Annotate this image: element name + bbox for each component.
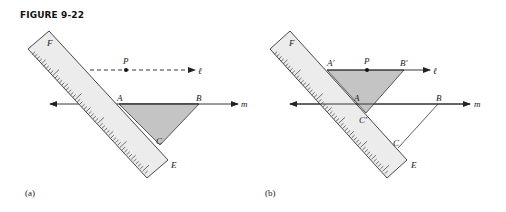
- label-e: E: [170, 160, 177, 170]
- label-f: F: [46, 38, 53, 48]
- label-e: E: [410, 160, 417, 170]
- label-a: A: [116, 93, 123, 103]
- point-p: [124, 68, 128, 72]
- ruler: [270, 31, 407, 178]
- label-b-prime: B′: [400, 58, 408, 68]
- label-line-l: ℓ: [433, 66, 437, 76]
- label-b: B: [196, 93, 202, 103]
- label-line-l: ℓ: [198, 66, 202, 76]
- label-line-m: m: [241, 99, 248, 109]
- label-a-prime: A′: [326, 58, 335, 68]
- caption-a: (a): [25, 188, 35, 198]
- segment-bc: [398, 104, 438, 148]
- label-line-m: m: [474, 99, 481, 109]
- label-b: B: [436, 93, 442, 103]
- panel-a: F P ℓ A B m C E (a): [25, 31, 248, 198]
- label-c: C: [156, 136, 163, 146]
- figure-diagram: F P ℓ A B m C E (a) F A′ P B′ ℓ A B m C′…: [0, 0, 506, 212]
- label-f: F: [288, 38, 295, 48]
- label-a: A: [353, 93, 360, 103]
- label-c: C: [393, 138, 400, 148]
- point-p: [365, 68, 369, 72]
- panel-b: F A′ P B′ ℓ A B m C′ C E (b): [265, 31, 481, 198]
- caption-b: (b): [265, 188, 276, 198]
- label-p: P: [122, 56, 129, 66]
- label-c-prime: C′: [359, 115, 368, 125]
- label-p: P: [363, 56, 370, 66]
